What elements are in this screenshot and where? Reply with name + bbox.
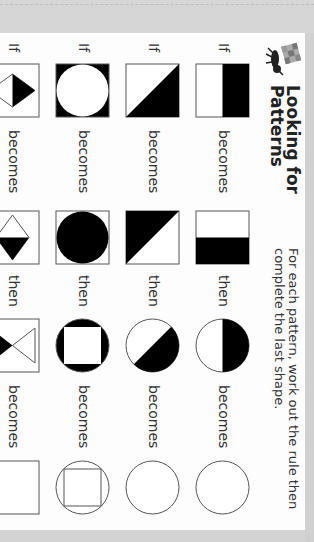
black-square-white-circle-icon (55, 63, 110, 118)
worksheet-rotated: Looking for Patterns For each pattern, w… (0, 33, 305, 530)
becomes-label: becomes (216, 385, 232, 448)
white-square-black-circle-icon (55, 210, 110, 265)
page-edge-right (305, 33, 314, 542)
instruction-line-2: complete the last shape. (272, 248, 286, 528)
page-title: Looking for Patterns (269, 85, 301, 194)
diamond-top-half-black-icon (0, 63, 40, 118)
becomes-label: becomes (6, 130, 22, 193)
answer-circle-empty-icon[interactable] (195, 460, 250, 515)
pattern-row-2: If becomes then becomes (125, 33, 180, 530)
black-circle-white-square-icon (55, 318, 110, 373)
if-label: If (6, 43, 22, 52)
page-edge-bottom (0, 530, 305, 542)
becomes-label: becomes (76, 385, 92, 448)
diamond-right-half-black-icon (0, 210, 40, 265)
then-label: then (216, 275, 232, 307)
if-label: If (216, 43, 232, 52)
square-top-half-black-icon (195, 63, 250, 118)
becomes-label: becomes (6, 385, 22, 448)
becomes-label: becomes (146, 385, 162, 448)
becomes-label: becomes (216, 130, 232, 193)
square-right-half-black-icon (195, 210, 250, 265)
then-label: then (76, 275, 92, 307)
becomes-label: becomes (76, 130, 92, 193)
instructions: For each pattern, work out the rule then… (272, 248, 300, 528)
circle-diagonal-half-black-icon (125, 318, 180, 373)
pattern-row-1: If becomes then becomes (195, 33, 250, 530)
dashed-cut-line (0, 4, 314, 5)
then-label: then (146, 275, 162, 307)
answer-square-empty-icon[interactable] (0, 460, 40, 515)
worksheet-panel: Looking for Patterns For each pattern, w… (0, 33, 305, 530)
answer-circle-with-square-icon[interactable] (55, 460, 110, 515)
then-label: then (6, 275, 22, 307)
circle-top-half-black-icon (195, 318, 250, 373)
title-line-1: Looking for (285, 85, 301, 194)
pattern-row-4: If becomes then becomes (0, 33, 40, 530)
square-diagonal-bottom-left-black-icon (125, 210, 180, 265)
ant-with-box-icon (265, 39, 301, 77)
instruction-line-1: For each pattern, work out the rule then (286, 248, 300, 528)
if-label: If (146, 43, 162, 52)
hourglass-bottom-black-icon (0, 318, 40, 373)
if-label: If (76, 43, 92, 52)
pattern-row-3: If becomes then becomes (55, 33, 110, 530)
becomes-label: becomes (146, 130, 162, 193)
answer-circle-empty-icon[interactable] (125, 460, 180, 515)
square-diagonal-top-right-black-icon (125, 63, 180, 118)
